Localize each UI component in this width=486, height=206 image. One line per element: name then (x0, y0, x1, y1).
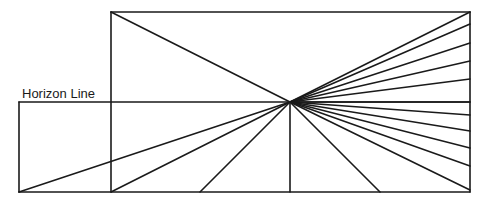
perspective-ray (290, 12, 470, 102)
perspective-lines (19, 12, 470, 192)
perspective-ray (111, 102, 290, 192)
perspective-ray (290, 102, 470, 190)
perspective-ray (290, 102, 470, 166)
horizon-line-label: Horizon Line (22, 86, 95, 101)
perspective-ray (200, 102, 290, 192)
perspective-ray (290, 43, 470, 102)
perspective-diagram (0, 0, 486, 206)
perspective-ray (290, 102, 380, 192)
perspective-ray (19, 102, 290, 192)
perspective-ray (111, 12, 290, 102)
perspective-ray (290, 102, 470, 131)
perspective-ray (290, 61, 470, 102)
